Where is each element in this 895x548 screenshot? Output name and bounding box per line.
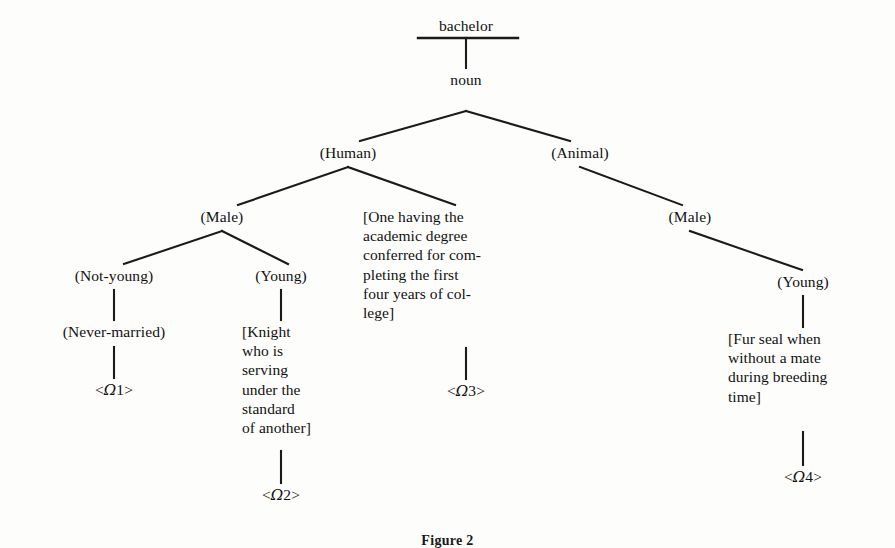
edge-male-to-young [222,231,288,264]
sense-leaf-omega-4: <Ω4> [784,467,822,487]
node-part-of-speech: noun [450,70,481,89]
figure-caption: Figure 2 [0,533,895,548]
sense-1-close-angle: > [124,381,133,398]
sense-3-omega-glyph: Ω [456,382,469,400]
figure-canvas: bachelor noun (Human) (Animal) (Male) [O… [0,0,895,548]
sense-4-close-angle: > [813,468,822,485]
sense-3-close-angle: > [476,382,485,399]
node-animal: (Animal) [551,143,609,162]
edge-human-to-degree-gloss [348,167,455,205]
node-root-headword: bachelor [439,16,493,35]
sense-2-close-angle: > [291,486,300,503]
node-human-male: (Male) [201,207,244,226]
sense-leaf-omega-3: <Ω3> [447,381,485,401]
sense-1-omega-glyph: Ω [104,381,117,399]
sense-4-open-angle: < [784,468,793,485]
node-never-married: (Never-married) [63,322,166,341]
edge-human-to-male [238,167,348,205]
sense-leaf-omega-2: <Ω2> [262,485,300,505]
node-human-young: (Young) [255,266,307,285]
edge-animal-to-male [580,167,682,205]
sense-2-omega-glyph: Ω [271,486,284,504]
node-gloss-fur-seal: [Fur seal when without a mate during bre… [728,329,827,406]
edge-male-to-not-young [124,231,222,264]
node-animal-male: (Male) [669,207,712,226]
node-human: (Human) [320,143,377,162]
edge-pos-to-animal [466,111,570,141]
edge-pos-to-human [360,111,466,141]
node-gloss-knight: [Knight who is serving under the standar… [242,322,311,437]
sense-3-open-angle: < [447,382,456,399]
edge-male-animal-to-young [690,231,802,270]
sense-leaf-omega-1: <Ω1> [95,380,133,400]
node-animal-young: (Young) [777,272,829,291]
sense-4-omega-glyph: Ω [793,468,806,486]
node-not-young: (Not-young) [75,266,154,285]
sense-1-open-angle: < [95,381,104,398]
sense-2-open-angle: < [262,486,271,503]
node-gloss-academic-degree: [One having the academic degree conferre… [363,207,481,322]
